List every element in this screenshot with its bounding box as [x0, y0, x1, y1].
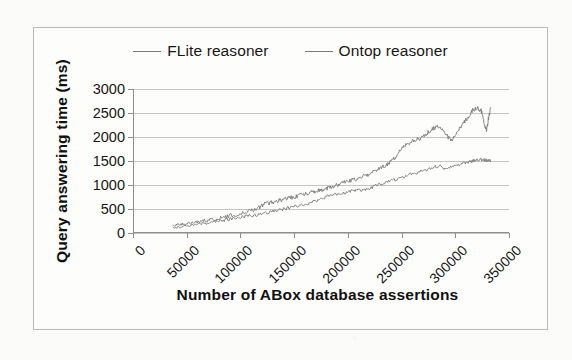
x-tick	[509, 233, 510, 238]
legend-label-flite: FLite reasoner	[167, 42, 268, 60]
x-tick	[133, 233, 134, 238]
plot-wrapper: 050010001500200025003000 050000100000150…	[133, 89, 509, 233]
x-tick	[240, 233, 241, 238]
x-tick	[348, 233, 349, 238]
legend-label-ontop: Ontop reasoner	[339, 42, 448, 60]
line-marker-icon	[133, 51, 161, 52]
x-axis-title: Number of ABox database assertions	[94, 286, 541, 304]
y-tick-label: 1500	[93, 153, 125, 169]
chart-legend: FLite reasoner Ontop reasoner	[34, 42, 547, 60]
y-axis-title-text: Query answering time (ms)	[53, 59, 71, 263]
x-tick-label: 50000	[163, 242, 202, 281]
y-tick-label: 1000	[93, 177, 125, 193]
y-axis-title: Query answering time (ms)	[52, 89, 72, 233]
x-tick	[187, 233, 188, 238]
x-tick-label: 0	[131, 242, 148, 259]
gridline	[133, 233, 509, 234]
x-tick	[402, 233, 403, 238]
y-tick-label: 500	[101, 201, 125, 217]
y-tick-label: 0	[117, 225, 125, 241]
y-tick-label: 3000	[93, 81, 125, 97]
line-marker-icon	[305, 51, 333, 52]
x-tick	[455, 233, 456, 238]
chart-figure: FLite reasoner Ontop reasoner Query answ…	[33, 27, 548, 330]
y-tick-label: 2000	[93, 129, 125, 145]
series-lines	[133, 89, 509, 233]
plot-area: 050010001500200025003000 050000100000150…	[133, 89, 509, 233]
legend-item-ontop[interactable]: Ontop reasoner	[305, 42, 448, 60]
x-tick	[294, 233, 295, 238]
series-line-flite	[173, 106, 491, 226]
x-tick-label: 100000	[211, 242, 255, 286]
x-tick-label: 200000	[319, 242, 363, 286]
y-tick-label: 2500	[93, 105, 125, 121]
x-tick-label: 300000	[426, 242, 470, 286]
legend-item-flite[interactable]: FLite reasoner	[133, 42, 268, 60]
x-tick-label: 350000	[480, 242, 524, 286]
x-tick-label: 150000	[265, 242, 309, 286]
x-tick-label: 250000	[373, 242, 417, 286]
